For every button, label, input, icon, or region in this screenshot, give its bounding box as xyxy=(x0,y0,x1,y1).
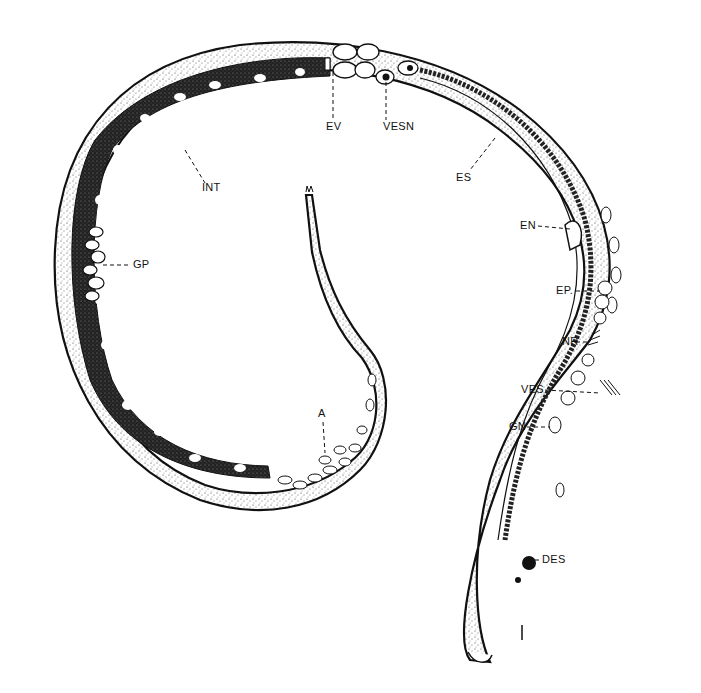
label-INT: INT xyxy=(202,182,221,193)
nucleus xyxy=(407,65,413,71)
label-ES: ES xyxy=(456,172,471,183)
excretory-nucleus xyxy=(565,221,581,250)
label-EN: EN xyxy=(520,220,536,231)
label-VES: VES xyxy=(521,384,544,395)
deirid xyxy=(522,556,536,570)
rectal-cells xyxy=(278,374,376,489)
label-A: A xyxy=(318,408,326,419)
label-GP: GP xyxy=(133,259,150,270)
label-NR: NR xyxy=(562,336,579,347)
esophago-intestinal-valve xyxy=(325,58,330,70)
esophagus xyxy=(420,70,591,540)
label-DES: DES xyxy=(542,554,566,565)
tail-tip xyxy=(306,186,313,192)
label-VESN: VESN xyxy=(383,121,414,132)
label-EP: EP. xyxy=(556,285,573,296)
nematode-drawing xyxy=(0,0,701,693)
nucleus xyxy=(383,74,390,81)
label-GN: GN xyxy=(509,421,526,432)
label-EV: EV xyxy=(326,121,341,132)
